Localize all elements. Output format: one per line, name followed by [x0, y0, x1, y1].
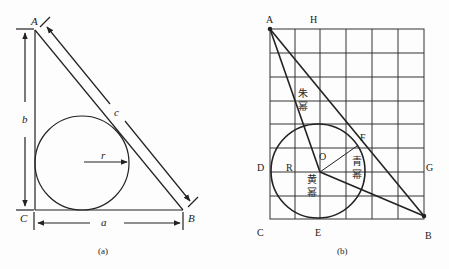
- label-zhu-mi: 朱: [298, 88, 308, 99]
- c-arrow-down: [125, 121, 190, 201]
- c-arrow-up: [47, 27, 110, 104]
- label-huang-mi: 黄: [307, 173, 317, 185]
- side-c-label: c: [114, 106, 119, 118]
- caption-a: (a): [98, 246, 108, 256]
- hypotenuse-ab: [270, 29, 424, 216]
- figure-b-labels: A H D R O F G C E B (b): [257, 14, 433, 256]
- side-a-label: a: [101, 216, 107, 228]
- incircle: [35, 116, 129, 210]
- diagram-canvas: A B C b a c r (a) A H D R O: [0, 0, 449, 269]
- label-qing-mi: 青: [352, 155, 362, 167]
- hypotenuse-c-line: [35, 30, 183, 210]
- figure-b: [269, 28, 426, 219]
- point-d-label: D: [257, 162, 264, 173]
- point-o-label: O: [319, 151, 326, 162]
- point-e-label: E: [315, 227, 321, 238]
- point-f-label: F: [360, 132, 366, 143]
- vertex-a-label: A: [30, 15, 38, 27]
- vertex-c-label: C: [20, 212, 28, 224]
- point-r-label: R: [286, 162, 293, 173]
- point-c-label: C: [257, 227, 264, 238]
- svg-text:幂: 幂: [307, 187, 317, 198]
- svg-text:幂: 幂: [352, 169, 362, 180]
- caption-b: (b): [337, 246, 348, 256]
- side-b-label: b: [22, 113, 28, 125]
- figure-a: [16, 17, 198, 230]
- point-a-label: A: [266, 14, 274, 25]
- point-b-label: B: [425, 230, 432, 241]
- svg-text:幂: 幂: [298, 101, 308, 112]
- chinese-labels: 朱幂 青幂 黄幂: [298, 88, 362, 198]
- figure-a-labels: A B C b a c r (a): [20, 15, 195, 256]
- radius-label: r: [101, 149, 106, 161]
- point-h-label: H: [310, 14, 317, 25]
- point-g-label: G: [426, 162, 433, 173]
- vertex-b-label: B: [188, 212, 195, 224]
